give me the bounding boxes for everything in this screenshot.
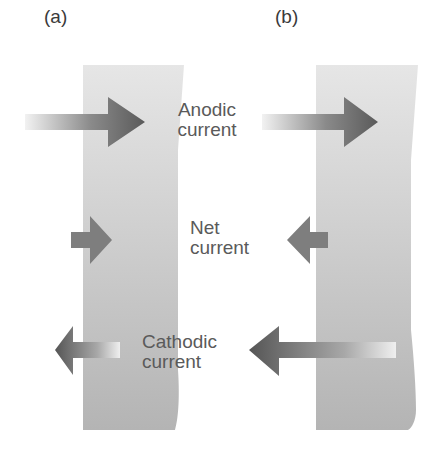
panel-label-b: (b)	[275, 6, 298, 28]
caption-line: current	[162, 120, 252, 140]
net-current-caption: Net current	[185, 218, 275, 258]
caption-line: current	[142, 352, 252, 372]
anodic-current-caption: Anodic current	[162, 100, 252, 140]
caption-line: Anodic	[162, 100, 252, 120]
caption-line: Cathodic	[142, 332, 252, 352]
panel-label-a: (a)	[44, 6, 67, 28]
cathodic-current-caption: Cathodic current	[142, 332, 252, 372]
caption-line: Net	[185, 218, 275, 238]
caption-line: current	[185, 238, 275, 258]
